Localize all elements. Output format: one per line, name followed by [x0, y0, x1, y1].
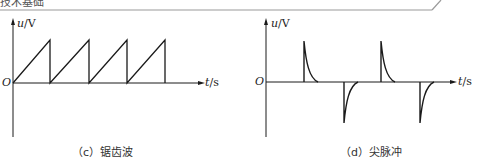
header-rule [0, 0, 441, 10]
x-axis-arrow-icon [198, 81, 205, 85]
y-axis-arrow-icon [264, 18, 268, 25]
origin-label: O [255, 75, 264, 88]
x-axis-label: t/s [205, 76, 219, 89]
sawtooth-chart [11, 18, 205, 137]
positive-spike [304, 41, 318, 82]
x-axis-arrow-icon [450, 80, 457, 84]
negative-spike [344, 82, 358, 123]
waveform-diagrams [0, 0, 480, 163]
origin-label: O [2, 76, 11, 89]
y-axis-label: u/V [271, 17, 290, 30]
figure-caption-d: （d）尖脉冲 [340, 143, 402, 159]
spike-pulse-chart [264, 18, 457, 137]
y-axis-label: u/V [17, 17, 36, 30]
positive-spike [381, 41, 395, 82]
y-axis-arrow-icon [11, 18, 15, 25]
figure-caption-c: （c）锯齿波 [72, 143, 133, 159]
sawtooth-waveform [13, 40, 165, 83]
x-axis-label: t/s [458, 75, 472, 88]
negative-spike [420, 82, 434, 123]
